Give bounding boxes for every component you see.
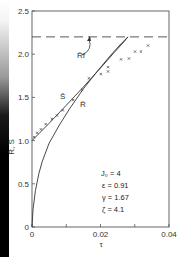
y-tick-label: 1.5 [18, 93, 30, 102]
data-point-marker [120, 58, 122, 60]
x-axis-label: τ [99, 240, 103, 249]
data-point-marker [107, 70, 109, 72]
data-point-marker [147, 44, 149, 46]
label-s: S̄ [60, 92, 65, 101]
ticks: 00.020.0400.51.01.52.02.5 [18, 7, 177, 239]
data-point-marker [134, 50, 136, 52]
x-tick-label: 0.02 [93, 230, 109, 239]
y-tick-label: 0.5 [18, 180, 30, 189]
chart: 00.020.0400.51.01.52.02.5 τ R̄, S̄ R̄f S… [0, 0, 191, 257]
label-rf: R̄f [77, 51, 86, 60]
data-point-marker [140, 50, 142, 52]
data-point-marker [45, 123, 47, 125]
y-tick-label: 2.5 [18, 7, 30, 16]
data-point-marker [88, 77, 90, 79]
data-point-marker [107, 66, 109, 68]
y-tick-label: 0 [25, 223, 30, 232]
x-tick-label: 0.04 [161, 230, 177, 239]
param-j0: J₀ = 4 [101, 169, 121, 178]
y-tick-label: 1.0 [18, 137, 30, 146]
data-point-marker [100, 73, 102, 75]
param-zeta: ζ = 4.1 [102, 205, 124, 214]
data-point-marker [40, 128, 42, 130]
axes [32, 11, 169, 227]
y-axis-label: R̄, S̄ [7, 139, 16, 155]
x-tick-label: 0 [30, 230, 35, 239]
markers [33, 44, 149, 138]
param-epsilon: ε = 0.91 [102, 181, 129, 190]
series [32, 37, 169, 227]
label-r: R̄ [80, 100, 86, 109]
plot-frame [32, 11, 169, 227]
data-point-marker [128, 57, 130, 59]
param-gamma: γ = 1.67 [102, 193, 129, 202]
y-tick-label: 2.0 [18, 50, 30, 59]
data-point-marker [72, 99, 74, 101]
data-point-marker [36, 132, 38, 134]
